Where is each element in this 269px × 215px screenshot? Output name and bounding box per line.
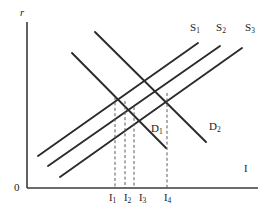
supply-curve-label-2-subscript: 2 [222, 26, 226, 35]
demand-curve-label-2-text: D [209, 120, 217, 132]
origin-label: 0 [14, 182, 20, 193]
x-tick-label-3-subscript: 3 [143, 196, 147, 205]
supply-curve-label-3: S3 [245, 22, 255, 35]
supply-curve-label-1: S1 [190, 22, 200, 35]
curve-s2 [48, 46, 220, 166]
supply-demand-figure: r I 0 S1S2S3D1D2I1I2I3I4 [0, 0, 269, 215]
x-tick-label-1: I1 [109, 193, 116, 205]
demand-curve-label-1-subscript: 1 [159, 127, 163, 136]
y-axis-label: r [20, 8, 24, 19]
x-tick-label-4-subscript: 4 [168, 196, 172, 205]
x-tick-label-2-subscript: 2 [128, 196, 132, 205]
supply-curve-label-1-subscript: 1 [196, 26, 200, 35]
x-axis-label: I [244, 164, 248, 175]
axes-group [27, 22, 258, 188]
x-tick-label-4: I4 [164, 193, 171, 205]
demand-curve-label-1-text: D [151, 122, 159, 134]
plot-canvas [0, 0, 269, 215]
demand-curve-label-1: D1 [151, 123, 163, 136]
demand-curve-label-2: D2 [209, 121, 221, 134]
x-tick-label-1-subscript: 1 [113, 196, 117, 205]
supply-curve-label-3-subscript: 3 [251, 26, 255, 35]
x-tick-label-3: I3 [139, 193, 146, 205]
demand-curve-label-2-subscript: 2 [217, 125, 221, 134]
supply-curve-label-2: S2 [216, 22, 226, 35]
x-tick-label-2: I2 [124, 193, 131, 205]
curves-group [38, 32, 242, 177]
